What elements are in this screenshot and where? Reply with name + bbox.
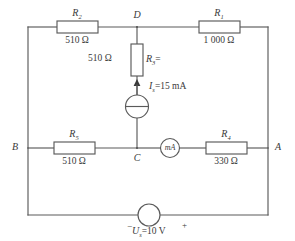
resistor-r4-reference: R4 <box>221 129 230 142</box>
resistor-r1-reference: R1 <box>214 8 223 21</box>
circuit-diagram-canvas: R2 510 Ω R1 1 000 Ω D 510 Ω R3= Is=15 mA… <box>0 0 295 241</box>
node-label-a: A <box>275 142 281 152</box>
node-label-b: B <box>12 142 18 152</box>
resistor-r4-value: 330 Ω <box>214 157 238 167</box>
voltage-source-plus-sign: + <box>182 221 187 230</box>
resistor-r5-body <box>54 142 95 154</box>
resistor-r2-reference: R2 <box>72 8 81 21</box>
voltage-source-symbol <box>138 204 160 226</box>
node-label-c: C <box>134 153 141 163</box>
resistor-r5-reference: R5 <box>69 129 78 142</box>
resistor-r1-body <box>199 21 240 33</box>
resistor-r2-value: 510 Ω <box>65 36 89 46</box>
resistor-r3-reference: R3= <box>146 54 161 67</box>
resistor-r3-body <box>131 44 143 76</box>
resistor-r3-value: 510 Ω <box>88 54 112 64</box>
circuit-schematic <box>0 0 295 241</box>
resistor-r1-value: 1 000 Ω <box>204 36 235 46</box>
milliammeter-label: mA <box>165 144 176 152</box>
current-source-label: Is=15 mA <box>149 81 186 94</box>
resistor-r4-body <box>206 142 247 154</box>
junction-dot-c <box>136 147 138 149</box>
node-label-d: D <box>133 10 140 20</box>
junction-dot-d <box>136 26 138 28</box>
resistor-r5-value: 510 Ω <box>62 157 86 167</box>
voltage-source-label: Us=10 V <box>132 226 166 239</box>
resistor-r2-body <box>57 21 98 33</box>
